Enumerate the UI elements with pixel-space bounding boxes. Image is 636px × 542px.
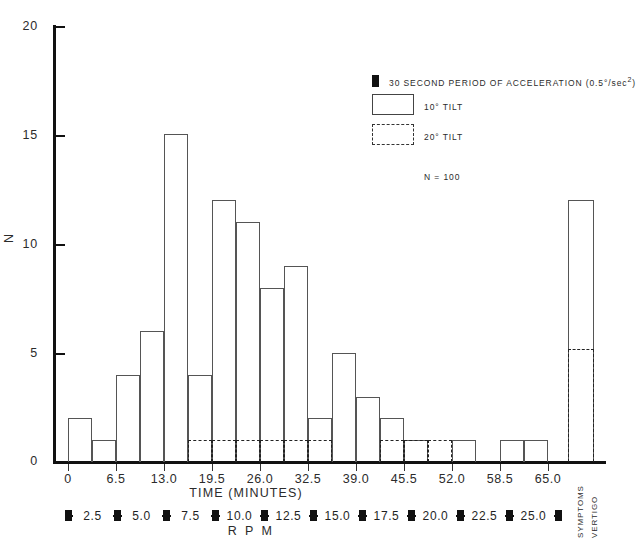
x-tick-13-0 [164,464,165,471]
legend-label-tilt10: 10° TILT [424,102,463,112]
rpm-marker-3 [212,510,219,521]
x-tick-label-6-5: 6.5 [93,472,139,486]
bar-solid-9 [284,266,308,462]
x-tick-45-5 [404,464,405,471]
bar-dashed-9 [284,440,308,462]
bar-dashed-5 [188,440,212,462]
rpm-marker-10 [555,510,562,521]
bar-solid-2 [116,375,140,462]
y-tick-5 [56,353,65,355]
x-tick-32-5 [308,464,309,471]
rpm-label-5-0: 5.0 [122,509,162,523]
bar-solid-16 [452,440,476,462]
rpm-label-22-5: 22.5 [465,509,505,523]
bar-solid-19 [524,440,548,462]
bar-solid-4 [164,134,188,462]
bar-solid-0 [68,418,92,462]
rpm-marker-5 [310,510,317,521]
x-tick-label-13-0: 13.0 [141,472,187,486]
x-tick-58-5 [500,464,501,471]
x-tick-26-0 [260,464,261,471]
bar-solid-1 [92,440,116,462]
dashed-rectangle-icon [372,124,414,145]
legend-row-tilt20: 20° TILT [372,126,612,156]
rpm-marker-6 [359,510,366,521]
legend-label-sample-size: N = 100 [424,172,460,182]
x-tick-label-52-0: 52.0 [429,472,475,486]
bar-solid-6 [212,200,236,462]
legend-label-tilt20: 20° TILT [424,132,463,142]
rpm-label-12-5: 12.5 [269,509,309,523]
x-tick-label-39-0: 39.0 [333,472,379,486]
x-tick-label-65-0: 65.0 [525,472,571,486]
rpm-label-15-0: 15.0 [318,509,358,523]
rpm-marker-4 [261,510,268,521]
y-tick-20 [56,26,65,28]
rpm-marker-7 [408,510,415,521]
bar-dashed-13 [380,440,404,462]
y-tick-15 [56,135,65,137]
rpm-label-7-5: 7.5 [171,509,211,523]
bar-dashed-14 [404,440,428,462]
x-tick-52-0 [452,464,453,471]
filled-square-icon [372,75,379,87]
legend-label-acceleration: 30 SECOND PERIOD OF ACCELERATION (0.5°/s… [389,76,636,88]
open-rectangle-icon [372,94,414,115]
x-tick-0 [68,464,69,471]
legend: 30 SECOND PERIOD OF ACCELERATION (0.5°/s… [372,74,612,192]
bar-dashed-15 [428,440,452,462]
bar-dashed-7 [236,440,260,462]
rpm-label-25-0: 25.0 [514,509,554,523]
y-tick-10 [56,244,65,246]
legend-row-acceleration: 30 SECOND PERIOD OF ACCELERATION (0.5°/s… [372,74,612,96]
bar-solid-3 [140,331,164,462]
rpm-label-20-0: 20.0 [416,509,456,523]
rpm-marker-9 [506,510,513,521]
y-tick-label-20: 20 [0,19,38,33]
rpm-marker-8 [457,510,464,521]
bar-solid-7 [236,222,260,462]
x-tick-65-0 [548,464,549,471]
x-tick-label-45-5: 45.5 [381,472,427,486]
rpm-marker-2 [163,510,170,521]
bar-dashed-8 [260,440,284,462]
y-axis-title: N [2,234,16,243]
bar-solid-12 [356,397,380,462]
x-tick-19-5 [212,464,213,471]
x-tick-6-5 [116,464,117,471]
y-tick-label-0: 0 [0,454,38,468]
x-tick-label-58-5: 58.5 [477,472,523,486]
x-tick-label-19-5: 19.5 [189,472,235,486]
rpm-label-2-5: 2.5 [73,509,113,523]
rpm-marker-1 [114,510,121,521]
legend-row-tilt10: 10° TILT [372,96,612,126]
rpm-label-17-5: 17.5 [367,509,407,523]
bar-dashed-6 [212,440,236,462]
x-tick-label-26-0: 26.0 [237,472,283,486]
rpm-label-10-0: 10.0 [220,509,260,523]
bar-solid-11 [332,353,356,462]
bar-solid-18 [500,440,524,462]
rpm-axis: 2.5 5.0 7.5 10.0 12.5 15.0 17.5 20.0 22.… [0,506,612,524]
x-tick-label-0: 0 [45,472,91,486]
rpm-axis-title: R P M [0,524,612,538]
bar-dashed-symptoms [568,349,594,462]
bar-dashed-10 [308,440,332,462]
y-tick-label-15: 15 [0,128,38,142]
legend-row-sample-size: N = 100 [372,170,612,192]
x-axis-title: TIME (MINUTES) [0,486,612,500]
rpm-marker-0 [65,510,72,521]
x-tick-39-0 [356,464,357,471]
x-tick-label-32-5: 32.5 [285,472,331,486]
y-tick-label-5: 5 [0,346,38,360]
bar-solid-8 [260,288,284,462]
